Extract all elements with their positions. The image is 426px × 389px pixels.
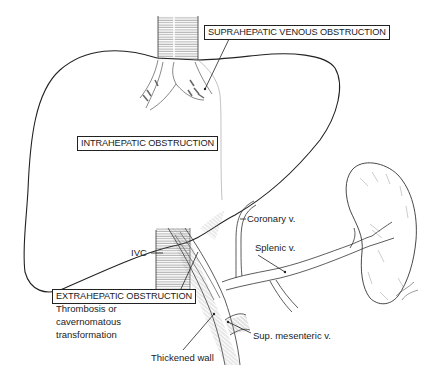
splenic-label: Splenic v. [255, 242, 295, 254]
extrahepatic-label: EXTRAHEPATIC OBSTRUCTION [52, 289, 196, 304]
sup-mesenteric-label: Sup. mesenteric v. [253, 330, 331, 342]
splenic-vein [222, 222, 394, 312]
hepatic-veins [140, 60, 222, 200]
diagram: SUPRAHEPATIC VENOUS OBSTRUCTION INTRAHEP… [0, 0, 426, 389]
ivc-upper [158, 16, 198, 60]
thickened-wall-leader [183, 314, 214, 350]
suprahepatic-label: SUPRAHEPATIC VENOUS OBSTRUCTION [204, 25, 390, 40]
suprahepatic-leader [205, 37, 230, 89]
extrahepatic-detail-1: Thrombosis or [56, 303, 117, 316]
spleen [346, 163, 418, 304]
thickened-wall-label: Thickened wall [151, 352, 214, 364]
extrahepatic-detail-2: cavernomatous [56, 316, 121, 329]
coronary-label: Coronary v. [247, 213, 295, 225]
extrahepatic-detail-3: transformation [56, 329, 117, 342]
intrahepatic-label: INTRAHEPATIC OBSTRUCTION [77, 136, 218, 151]
ivc-label: IVC [131, 247, 147, 259]
sup-mesenteric-vein [225, 314, 250, 335]
